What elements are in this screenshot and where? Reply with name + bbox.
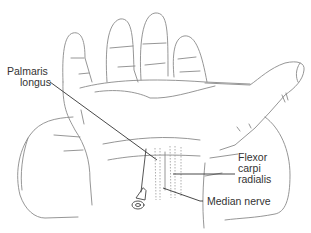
label-line: radialis [238,174,271,185]
label-flexor-carpi-radialis: Flexor carpi radialis [238,152,271,185]
needle-hub [132,201,144,209]
palmaris-longus-leader [50,82,157,160]
needle [141,149,146,192]
middle-finger-outline [140,13,168,80]
label-median-nerve: Median nerve [207,196,271,207]
hand-anatomy-diagram: Palmaris longus Flexor carpi radialis Me… [0,0,311,233]
median-nerve-leader [163,188,203,201]
label-line: longus [7,77,51,88]
label-palmaris-longus: Palmaris longus [7,66,51,88]
ulnar-border [63,82,92,205]
ring-finger-outline [106,19,138,82]
little-finger-outline [63,33,92,82]
thumb-outline [205,62,304,150]
